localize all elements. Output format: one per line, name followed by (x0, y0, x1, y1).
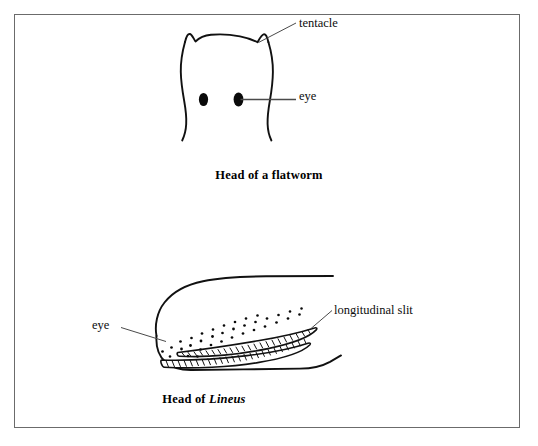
caption-flatworm-text: Head of a flatworm (215, 168, 322, 182)
caption-lineus-prefix: Head of (162, 392, 209, 406)
label-longitudinal-slit: longitudinal slit (334, 303, 413, 318)
caption-lineus-genus: Lineus (209, 392, 246, 406)
label-eye-flatworm: eye (299, 89, 316, 104)
figure-border-frame (14, 14, 520, 428)
label-tentacle: tentacle (299, 16, 338, 31)
figure-root: tentacle eye longitudinal slit eye Head … (0, 0, 538, 446)
label-eye-lineus: eye (92, 318, 109, 333)
caption-lineus: Head of Lineus (0, 392, 473, 407)
caption-flatworm: Head of a flatworm (0, 168, 538, 183)
